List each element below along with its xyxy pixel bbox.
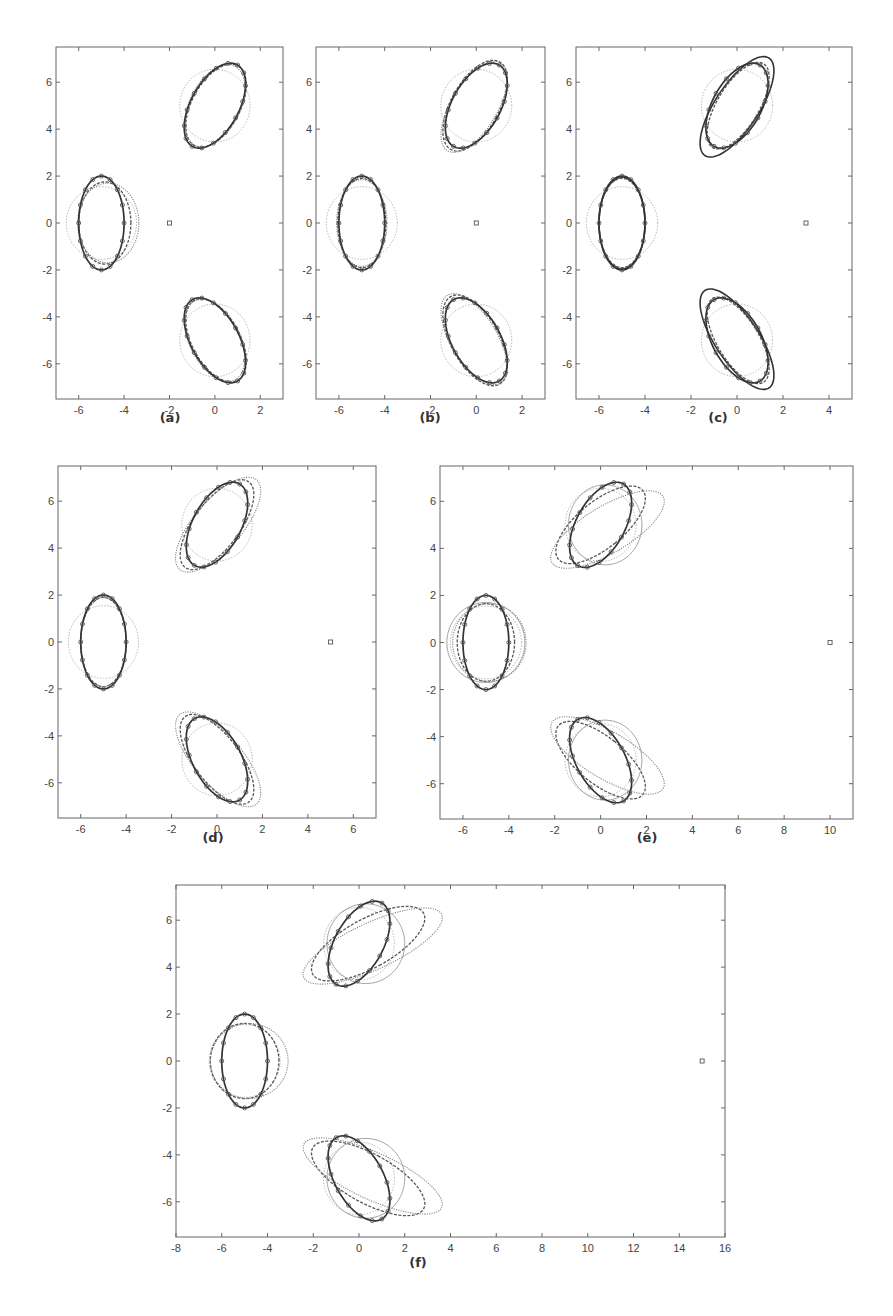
- x-tick-label: 2: [519, 404, 525, 416]
- x-tick-label: -4: [263, 1242, 273, 1254]
- y-tick-label: 0: [48, 636, 54, 648]
- true-target-ellipse: [570, 718, 632, 803]
- true-target-ellipse: [463, 595, 509, 689]
- y-tick-label: -4: [302, 311, 312, 323]
- true-target-ellipse: [328, 1136, 390, 1221]
- y-tick-label: 0: [306, 217, 312, 229]
- prior-circle: [441, 304, 512, 377]
- x-tick-label: 14: [673, 1242, 685, 1254]
- true-target-ellipse: [184, 63, 245, 148]
- axes-box: [176, 885, 725, 1237]
- prior-circle: [441, 69, 512, 142]
- y-tick-label: 2: [566, 170, 572, 182]
- panel-caption: (e): [637, 830, 658, 845]
- estimate-ellipse-dashed: [443, 295, 507, 386]
- observer-marker: [804, 221, 808, 225]
- y-tick-label: 4: [566, 123, 572, 135]
- x-tick-label: -6: [458, 824, 468, 836]
- x-tick-label: -8: [171, 1242, 181, 1254]
- y-tick-label: 2: [306, 170, 312, 182]
- prior-circle: [324, 1142, 395, 1215]
- x-tick-label: 6: [493, 1242, 499, 1254]
- prior-circle: [182, 723, 252, 796]
- plot-panel-d: -6-4-20246-6-4-20246: [18, 426, 416, 858]
- y-tick-label: -6: [162, 1196, 172, 1208]
- x-tick-label: -2: [308, 1242, 318, 1254]
- x-tick-label: 2: [257, 404, 263, 416]
- axes-box: [440, 466, 853, 819]
- y-tick-label: 6: [306, 76, 312, 88]
- true-target-ellipse: [186, 717, 247, 802]
- y-tick-label: 4: [306, 123, 312, 135]
- observer-marker: [168, 221, 172, 225]
- plot-panel-c: -6-4-2024-6-4-20246: [536, 7, 892, 439]
- panel-caption: (f): [409, 1255, 427, 1270]
- estimate-ellipse-dashed: [186, 299, 247, 382]
- x-tick-label: -4: [640, 404, 650, 416]
- estimate-ellipse-dashed: [443, 60, 507, 151]
- y-tick-label: -6: [42, 358, 52, 370]
- y-tick-label: 6: [430, 495, 436, 507]
- x-tick-label: 12: [627, 1242, 639, 1254]
- x-tick-label: 0: [212, 404, 218, 416]
- y-tick-label: 4: [48, 542, 54, 554]
- true-target-ellipse: [339, 176, 385, 270]
- true-target-ellipse: [79, 176, 124, 270]
- estimate-ellipse-dotted: [441, 294, 507, 385]
- y-tick-label: 2: [46, 170, 52, 182]
- y-tick-label: -4: [162, 1149, 172, 1161]
- x-tick-label: -4: [380, 404, 390, 416]
- x-tick-label: 2: [780, 404, 786, 416]
- x-tick-label: 6: [735, 824, 741, 836]
- observer-marker: [474, 221, 478, 225]
- true-target-ellipse: [222, 1014, 268, 1108]
- x-tick-label: -2: [686, 404, 696, 416]
- x-tick-label: -2: [167, 823, 177, 835]
- y-tick-label: -2: [562, 264, 572, 276]
- y-tick-label: 0: [46, 217, 52, 229]
- prior-circle: [565, 488, 636, 561]
- y-tick-label: -6: [562, 358, 572, 370]
- y-tick-label: -6: [302, 358, 312, 370]
- plot-panel-f: -8-6-4-20246810121416-6-4-20246: [136, 845, 765, 1277]
- y-tick-label: 6: [166, 914, 172, 926]
- estimate-ellipse-dashed: [457, 604, 514, 682]
- prior-circle: [182, 488, 252, 561]
- x-tick-label: 8: [781, 824, 787, 836]
- prior-circle: [324, 907, 395, 980]
- axes-box: [576, 47, 852, 399]
- estimate-ellipse-dotted: [441, 61, 507, 152]
- panel-caption: (c): [708, 410, 728, 425]
- x-tick-label: -6: [594, 404, 604, 416]
- y-tick-label: 6: [566, 76, 572, 88]
- plot-panel-e: -6-4-20246810-6-4-20246: [400, 426, 893, 859]
- x-tick-label: 0: [356, 1242, 362, 1254]
- y-tick-label: 4: [166, 961, 172, 973]
- axes-box: [56, 47, 283, 399]
- x-tick-label: 16: [719, 1242, 731, 1254]
- y-tick-label: -2: [426, 684, 436, 696]
- y-tick-label: -2: [162, 1102, 172, 1114]
- x-tick-label: 2: [402, 1242, 408, 1254]
- panel-caption: (d): [202, 830, 223, 845]
- true-target-ellipse: [445, 63, 507, 148]
- true-target-ellipse: [81, 595, 126, 689]
- y-tick-label: 0: [166, 1055, 172, 1067]
- y-tick-label: -2: [302, 264, 312, 276]
- y-tick-label: -4: [562, 311, 572, 323]
- y-tick-label: 2: [48, 589, 54, 601]
- y-tick-label: -4: [44, 730, 54, 742]
- x-tick-label: -4: [504, 824, 514, 836]
- x-tick-label: 0: [598, 824, 604, 836]
- estimate-ellipse-thin: [447, 602, 525, 682]
- x-tick-label: -4: [119, 404, 129, 416]
- panel-caption: (b): [419, 410, 440, 425]
- true-target-ellipse: [599, 176, 645, 270]
- y-tick-label: 4: [430, 542, 436, 554]
- estimate-ellipse-dotted: [78, 183, 139, 263]
- observer-marker: [828, 641, 832, 645]
- x-tick-label: 10: [824, 824, 836, 836]
- x-tick-label: 0: [734, 404, 740, 416]
- y-tick-label: -2: [44, 683, 54, 695]
- y-tick-label: 6: [46, 76, 52, 88]
